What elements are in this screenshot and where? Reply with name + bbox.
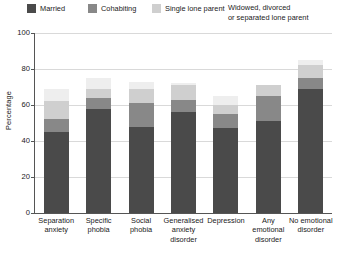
bar-no-emotional-disorder[interactable] bbox=[298, 60, 323, 213]
legend-item-single-lone-parent: Single lone parent bbox=[152, 4, 225, 13]
bar-any-emotional-disorder[interactable] bbox=[256, 85, 281, 213]
chart-legend: Married Cohabiting Single lone parent Wi… bbox=[0, 0, 340, 28]
bar-segment-cohabiting bbox=[213, 114, 238, 128]
bar-segment-widowed-divorced-or-separated-lone-parent bbox=[86, 78, 111, 89]
bar-segment-widowed-divorced-or-separated-lone-parent bbox=[44, 89, 69, 102]
y-tick-label: 100 bbox=[0, 29, 30, 37]
bar-segment-married bbox=[129, 127, 154, 213]
bar-segment-married bbox=[44, 132, 69, 213]
y-tick-label: 0 bbox=[0, 209, 30, 217]
chart-page: Married Cohabiting Single lone parent Wi… bbox=[0, 0, 340, 262]
legend-label-cohabiting: Cohabiting bbox=[101, 4, 136, 13]
bar-segment-cohabiting bbox=[86, 98, 111, 109]
bar-segment-married bbox=[298, 89, 323, 213]
legend-item-widowed-divorced-separated-lone-parent: Widowed, divorced bbox=[228, 3, 290, 12]
x-label-no-emotional-disorder: No emotionaldisorder bbox=[285, 216, 337, 235]
bar-separation-anxiety[interactable] bbox=[44, 89, 69, 213]
x-label-line: No emotional bbox=[285, 216, 337, 225]
legend-label-widowed-line1: Widowed, divorced bbox=[228, 3, 290, 12]
legend-item-cohabiting: Cohabiting bbox=[88, 4, 136, 13]
plot-area: Percentage 100806040200 bbox=[0, 28, 340, 223]
bar-specific-phobia[interactable] bbox=[86, 78, 111, 213]
bar-segment-married bbox=[171, 112, 196, 213]
legend-label-widowed-line2: or separated lone parent bbox=[228, 13, 309, 22]
bar-generalised-anxiety-disorder[interactable] bbox=[171, 83, 196, 213]
y-tick-label: 40 bbox=[0, 137, 30, 145]
legend-swatch-married bbox=[27, 4, 36, 13]
bar-segment-cohabiting bbox=[256, 96, 281, 121]
x-axis-labels: SeparationanxietySpecificphobiaSocialpho… bbox=[35, 216, 335, 262]
bar-segment-single-lone-parent bbox=[86, 89, 111, 98]
bar-segment-cohabiting bbox=[129, 103, 154, 126]
x-label-line: disorder bbox=[285, 225, 337, 234]
x-axis-line bbox=[34, 213, 332, 214]
y-tick-label: 80 bbox=[0, 65, 30, 73]
bar-segment-cohabiting bbox=[44, 119, 69, 132]
y-axis-label: Percentage bbox=[4, 81, 13, 141]
bar-segment-cohabiting bbox=[171, 100, 196, 113]
bar-segment-married bbox=[86, 109, 111, 213]
x-label-line: anxiety bbox=[158, 225, 210, 234]
bar-depression[interactable] bbox=[213, 96, 238, 213]
legend-swatch-cohabiting bbox=[88, 4, 97, 13]
bar-segment-single-lone-parent bbox=[44, 101, 69, 119]
legend-label-married: Married bbox=[40, 4, 65, 13]
y-tick-label: 60 bbox=[0, 101, 30, 109]
bar-segment-married bbox=[213, 128, 238, 213]
bar-social-phobia[interactable] bbox=[129, 82, 154, 213]
legend-label-single-lone-parent: Single lone parent bbox=[165, 4, 225, 13]
bar-segment-single-lone-parent bbox=[213, 105, 238, 114]
x-label-line: disorder bbox=[242, 235, 294, 244]
bar-segment-single-lone-parent bbox=[256, 85, 281, 96]
x-label-line: disorder bbox=[158, 235, 210, 244]
bar-segment-single-lone-parent bbox=[298, 65, 323, 78]
bar-segment-widowed-divorced-or-separated-lone-parent bbox=[129, 82, 154, 89]
bar-segment-single-lone-parent bbox=[171, 85, 196, 99]
bar-segment-widowed-divorced-or-separated-lone-parent bbox=[213, 96, 238, 105]
legend-label-widowed-line2-wrap: or separated lone parent bbox=[228, 13, 309, 22]
bar-segment-cohabiting bbox=[298, 78, 323, 89]
y-tick-label: 20 bbox=[0, 173, 30, 181]
legend-item-married: Married bbox=[27, 4, 65, 13]
bar-segment-single-lone-parent bbox=[129, 89, 154, 103]
bar-segment-married bbox=[256, 121, 281, 213]
legend-swatch-single-lone-parent bbox=[152, 4, 161, 13]
bar-group bbox=[35, 33, 332, 213]
